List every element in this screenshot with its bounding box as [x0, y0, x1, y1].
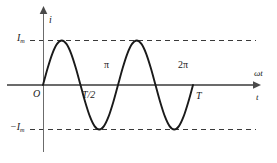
negative-amplitude-symbol: −I	[10, 121, 20, 132]
positive-amplitude-label: Im	[17, 33, 25, 43]
vertical-axis-label: i	[49, 15, 52, 25]
origin-label: O	[33, 89, 40, 99]
tick-label-t-half: T/2	[82, 90, 95, 100]
waveform-plot	[0, 0, 277, 163]
tick-label-two-pi: 2π	[178, 60, 188, 70]
horizontal-axis-label-t: t	[256, 93, 259, 102]
horizontal-axis-arrowhead	[253, 81, 261, 89]
positive-amplitude-subscript: m	[20, 37, 24, 44]
tick-label-pi: π	[104, 60, 109, 70]
waveform-figure: i ωt t O Im −Im π 2π T/2 T	[0, 0, 277, 163]
tick-label-t-period: T	[196, 91, 202, 101]
vertical-axis-arrowhead	[40, 6, 48, 14]
horizontal-axis-label-omega-t: ωt	[254, 69, 263, 78]
negative-amplitude-subscript: m	[20, 126, 24, 133]
negative-amplitude-label: −Im	[10, 122, 25, 132]
